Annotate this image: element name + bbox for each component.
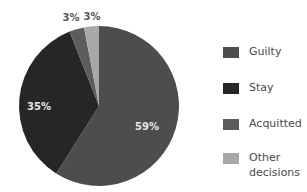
legend-item-acquitted: Acquitted — [223, 116, 299, 131]
legend-swatch-guilty — [223, 47, 239, 58]
legend-swatch-stay — [223, 83, 239, 94]
legend-swatch-acquitted — [223, 119, 239, 130]
pie-label-guilty: 59% — [135, 121, 159, 132]
legend-swatch-other-decisions — [223, 153, 239, 164]
legend-label-acquitted: Acquitted — [249, 116, 299, 131]
legend-label-other-decisions: Other decisions — [249, 150, 299, 180]
legend-label-stay: Stay — [249, 80, 299, 95]
legend-item-guilty: Guilty — [223, 44, 299, 59]
legend-item-stay: Stay — [223, 80, 299, 95]
pie-label-acquitted: 3% — [63, 12, 80, 23]
legend-label-guilty: Guilty — [249, 44, 299, 59]
pie-chart: 59%35%3%3% — [0, 0, 200, 192]
pie-label-stay: 35% — [27, 101, 51, 112]
legend-item-other-decisions: Other decisions — [223, 150, 299, 180]
pie-label-other-decisions: 3% — [84, 11, 101, 22]
